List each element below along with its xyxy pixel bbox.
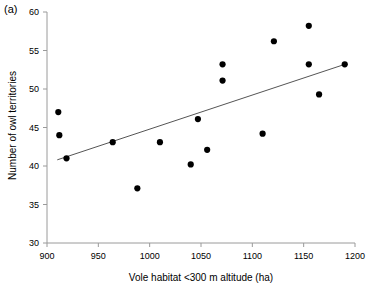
x-tick-label: 1000 (135, 251, 165, 261)
data-point (195, 116, 201, 122)
x-tick-label: 1200 (340, 251, 370, 261)
data-point (260, 131, 266, 137)
y-tick-label: 50 (21, 84, 39, 94)
x-tick-label: 1100 (237, 251, 267, 261)
data-point (157, 139, 163, 145)
data-point (63, 155, 69, 161)
data-point (55, 109, 61, 115)
x-tick-label: 1150 (289, 251, 319, 261)
data-point (56, 132, 62, 138)
x-tick-label: 900 (32, 251, 62, 261)
y-tick-label: 30 (21, 238, 39, 248)
trendline (57, 64, 344, 159)
data-point (316, 91, 322, 97)
y-tick-label: 60 (21, 7, 39, 17)
data-point (134, 185, 140, 191)
y-tick-label: 40 (21, 161, 39, 171)
y-tick-label: 35 (21, 200, 39, 210)
axes (43, 12, 355, 247)
data-points (55, 23, 348, 192)
data-point (342, 61, 348, 67)
figure-panel: (a) Number of owl territories Vole habit… (0, 0, 378, 302)
data-point (219, 61, 225, 67)
data-point (271, 38, 277, 44)
data-point (188, 161, 194, 167)
x-tick-label: 950 (83, 251, 113, 261)
y-tick-label: 55 (21, 46, 39, 56)
data-point (110, 139, 116, 145)
data-point (306, 23, 312, 29)
data-point (204, 147, 210, 153)
y-tick-label: 45 (21, 123, 39, 133)
data-point (306, 61, 312, 67)
data-point (219, 77, 225, 83)
x-tick-label: 1050 (186, 251, 216, 261)
